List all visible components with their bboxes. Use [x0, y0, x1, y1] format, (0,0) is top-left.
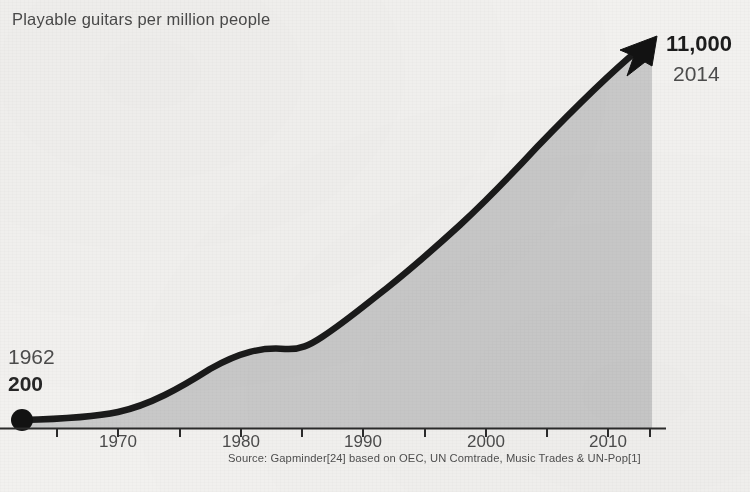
- x-tick-label-1990: 1990: [344, 432, 382, 452]
- x-tick-label-2000: 2000: [467, 432, 505, 452]
- end-value-label: 11,000: [666, 31, 732, 57]
- area-fill: [22, 41, 652, 428]
- x-tick-label-1980: 1980: [222, 432, 260, 452]
- end-year-label: 2014: [673, 62, 720, 86]
- start-value-label: 200: [8, 372, 43, 396]
- x-tick-label-2010: 2010: [589, 432, 627, 452]
- chart-plot-area: [0, 0, 750, 492]
- start-year-label: 1962: [8, 345, 55, 369]
- source-note: Source: Gapminder[24] based on OEC, UN C…: [228, 452, 641, 464]
- x-tick-label-1970: 1970: [99, 432, 137, 452]
